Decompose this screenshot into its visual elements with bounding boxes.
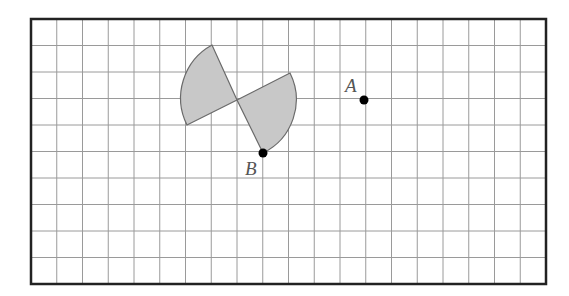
point-a-label: A — [343, 75, 357, 96]
grid-diagram: A B — [0, 0, 569, 296]
lower-right-sector — [237, 73, 296, 153]
point-b-label: B — [245, 158, 257, 179]
grid-lines — [31, 19, 546, 284]
point-a — [360, 96, 369, 105]
shaded-shape — [181, 45, 297, 153]
upper-left-sector — [181, 45, 237, 125]
point-b — [259, 149, 268, 158]
